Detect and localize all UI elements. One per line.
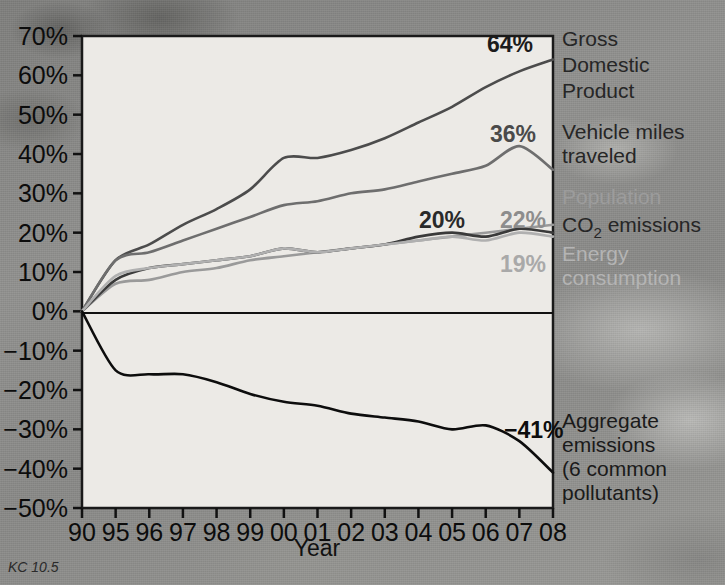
y-tick-label: 60% [18, 61, 68, 89]
legend-co2-text: CO [562, 213, 594, 236]
y-axis-labels: 70%60%50%40%30%20%10%0%−10%−20%−30%−40%−… [3, 22, 68, 522]
x-axis-ticks [82, 508, 553, 518]
value-label-energy: 19% [500, 251, 546, 277]
y-tick-label: −10% [3, 337, 68, 365]
x-axis-title: Year [294, 535, 341, 561]
legend-aggregate-line1: Aggregate [562, 409, 659, 432]
value-label-aggregate: −41% [504, 417, 563, 443]
legend-co2-suffix: emissions [602, 213, 701, 236]
x-tick-label: 99 [236, 518, 264, 546]
chart-figure: 70%60%50%40%30%20%10%0%−10%−20%−30%−40%−… [0, 0, 725, 585]
x-tick-label: 98 [203, 518, 231, 546]
x-tick-label: 97 [169, 518, 197, 546]
x-tick-label: 96 [135, 518, 163, 546]
x-tick-label: 05 [438, 518, 466, 546]
x-tick-label: 04 [405, 518, 433, 546]
x-tick-label: 06 [472, 518, 500, 546]
y-tick-label: −20% [3, 376, 68, 404]
legend-co2-subscript: 2 [594, 224, 602, 241]
legend-aggregate-line3: (6 common [562, 457, 667, 480]
y-tick-label: 20% [18, 219, 68, 247]
x-tick-label: 08 [539, 518, 567, 546]
x-tick-label: 03 [371, 518, 399, 546]
x-tick-label: 07 [505, 518, 533, 546]
legend-population: Population [562, 185, 661, 208]
x-tick-label: 90 [68, 518, 96, 546]
y-tick-label: −40% [3, 455, 68, 483]
value-label-gdp: 64% [487, 31, 533, 57]
plot-area-background [82, 36, 553, 508]
y-tick-label: 40% [18, 140, 68, 168]
legend-aggregate-line4: pollutants) [562, 481, 659, 504]
x-tick-label: 95 [102, 518, 130, 546]
legend-gdp-line3: Product [562, 79, 635, 102]
legend-co2: CO2 emissions [562, 213, 701, 241]
figure-credit: KC 10.5 [8, 559, 59, 575]
y-tick-label: 0% [32, 297, 68, 325]
y-tick-label: −30% [3, 415, 68, 443]
legend-vmt-line2: traveled [562, 144, 637, 167]
legend-vmt-line1: Vehicle miles [562, 120, 685, 143]
y-tick-label: 10% [18, 258, 68, 286]
legend-energy-line2: consumption [562, 266, 681, 289]
y-axis-ticks [73, 36, 82, 508]
y-tick-label: −50% [3, 494, 68, 522]
legend-gdp-line2: Domestic [562, 53, 650, 76]
y-tick-label: 70% [18, 22, 68, 50]
chart-svg: 70%60%50%40%30%20%10%0%−10%−20%−30%−40%−… [0, 0, 725, 585]
y-tick-label: 50% [18, 101, 68, 129]
legend-aggregate-line2: emissions [562, 433, 655, 456]
legend-energy-line1: Energy [562, 242, 629, 265]
value-label-vmt: 36% [490, 121, 536, 147]
legend-gdp-line1: Gross [562, 27, 618, 50]
y-tick-label: 30% [18, 179, 68, 207]
x-tick-label: 02 [337, 518, 365, 546]
value-label-co2: 20% [419, 207, 465, 233]
value-label-population: 22% [500, 207, 546, 233]
